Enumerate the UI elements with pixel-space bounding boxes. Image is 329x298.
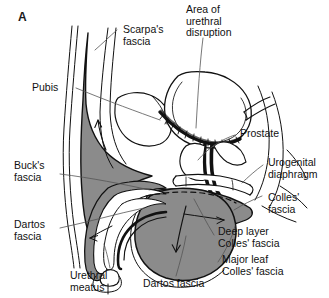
label-pubis: Pubis	[32, 82, 58, 94]
label-dartos-fascia-left: Dartos fascia	[14, 219, 45, 242]
abdominal-skin-lines	[63, 26, 80, 268]
label-area-of-urethral-disruption: Area of urethral disruption	[186, 4, 232, 39]
pubis-bone	[115, 93, 172, 146]
label-major-leaf-colles-fascia: Major leaf Colles' fascia	[222, 254, 284, 277]
label-bucks-fascia: Buck's fascia	[14, 160, 45, 183]
label-prostate: Prostate	[240, 128, 279, 140]
label-urethral-meatus: Urethral meatus	[70, 270, 107, 293]
panel-letter: A	[18, 10, 27, 24]
anatomical-figure-panel-a: A Scarpa's fascia Area of urethral disru…	[0, 0, 329, 298]
label-dartos-fascia-bottom: Dartos fascia	[143, 278, 204, 290]
label-scarpas-fascia: Scarpa's fascia	[123, 24, 164, 47]
label-urogenital-diaphragm: Urogenital diaphragm	[268, 157, 318, 180]
label-deep-layer-colles-fascia: Deep layer Colles' fascia	[218, 226, 280, 249]
label-colles-fascia: Colles' fascia	[268, 192, 299, 215]
bladder	[165, 72, 252, 148]
